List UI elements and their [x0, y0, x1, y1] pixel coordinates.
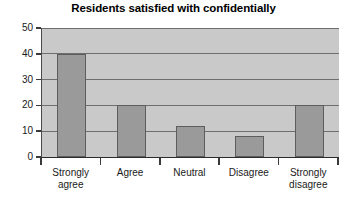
bar-chart: Residents satisfied with confidentially …: [0, 0, 347, 208]
y-tick-label: 30: [7, 75, 33, 85]
x-tick-label-line: Agree: [100, 167, 159, 179]
bar: [295, 105, 324, 157]
x-tick-label: Stronglyagree: [41, 167, 100, 191]
chart-title: Residents satisfied with confidentially: [0, 1, 347, 15]
x-axis-ticks: [0, 158, 347, 166]
x-tick-label-line: Strongly: [279, 167, 338, 179]
y-tick-label: 10: [7, 126, 33, 136]
x-tick-mark: [218, 158, 220, 165]
x-tick-mark: [159, 158, 161, 165]
bar: [57, 54, 86, 157]
x-axis-labels: StronglyagreeAgreeNeutralDisagreeStrongl…: [41, 167, 338, 207]
bar: [117, 105, 146, 157]
x-tick-label-line: agree: [41, 179, 100, 191]
x-tick-mark: [337, 158, 339, 165]
x-tick-label-line: Disagree: [219, 167, 278, 179]
x-tick-mark: [100, 158, 102, 165]
bar: [235, 136, 264, 157]
x-tick-label-line: Neutral: [160, 167, 219, 179]
bars-layer: [42, 28, 339, 157]
x-tick-label-line: Strongly: [41, 167, 100, 179]
x-tick-label: Agree: [100, 167, 159, 179]
y-tick-label: 40: [7, 49, 33, 59]
bar: [176, 126, 205, 157]
y-tick-label: 20: [7, 100, 33, 110]
x-tick-label: Neutral: [160, 167, 219, 179]
plot-area: [41, 28, 339, 158]
x-tick-label-line: disagree: [279, 179, 338, 191]
x-tick-mark: [40, 158, 42, 165]
y-tick-label: 50: [7, 23, 33, 33]
x-tick-label: Stronglydisagree: [279, 167, 338, 191]
x-tick-label: Disagree: [219, 167, 278, 179]
x-tick-mark: [278, 158, 280, 165]
